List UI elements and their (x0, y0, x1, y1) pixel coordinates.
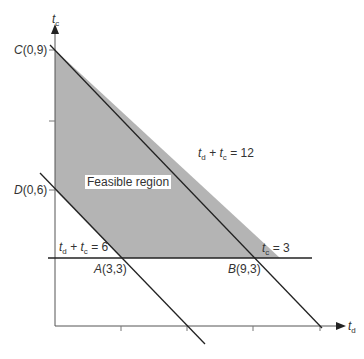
feasible-region-label: Feasible region (85, 175, 171, 189)
x-axis-arrow-icon (336, 322, 346, 330)
y-ticks (49, 50, 55, 190)
x-ticks (121, 326, 320, 331)
point-label-d: D(0,6) (14, 183, 47, 197)
point-label-b: B(9,3) (228, 262, 261, 276)
constraint-label-12: td + tc = 12 (198, 146, 254, 165)
constraint-label-tc3: tc = 3 (262, 241, 290, 260)
diagram-canvas (0, 0, 364, 359)
point-label-c: C(0,9) (14, 43, 47, 57)
y-axis-label: tc (52, 12, 59, 31)
constraint-label-6: td + tc = 6 (59, 240, 108, 259)
point-label-a: A(3,3) (94, 262, 127, 276)
x-axis-label: td (348, 319, 356, 338)
